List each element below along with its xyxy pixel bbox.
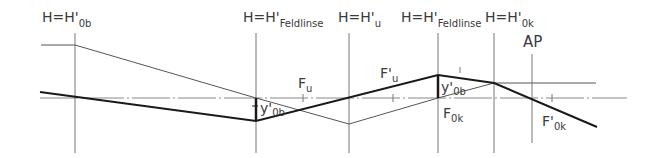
label-hu: H=H'u	[338, 9, 381, 29]
ray-diagram: H=H'0b H=H'Feldlinse H=H'u H=H'Feldlinse…	[0, 0, 666, 158]
label-y0b-2: y'0b	[441, 79, 466, 97]
label-h0b: H=H'0b	[42, 9, 91, 29]
label-h0k: H=H'0k	[485, 9, 534, 29]
label-feldlinse-1: H=H'Feldlinse	[243, 9, 323, 29]
label-feldlinse-2: H=H'Feldlinse	[401, 9, 481, 29]
thin-ray	[41, 45, 596, 124]
label-fu-prime: F'u	[380, 65, 398, 84]
label-f0k-prime: F'0k	[542, 113, 566, 132]
label-f0k: F0k	[443, 105, 463, 124]
label-ap: AP	[523, 33, 542, 51]
label-fu: Fu	[298, 75, 312, 94]
